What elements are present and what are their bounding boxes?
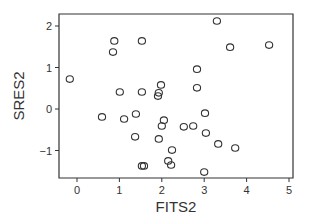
data-point-circle-icon (121, 116, 128, 123)
data-point-circle-icon (215, 141, 222, 148)
x-tick-label: 0 (74, 184, 80, 196)
data-point-circle-icon (202, 130, 209, 137)
data-point-circle-icon (111, 38, 118, 45)
data-point-circle-icon (132, 111, 139, 118)
x-tick-label: 2 (159, 184, 165, 196)
y-tick-label: 2 (46, 20, 52, 32)
plot-frame-border (59, 14, 293, 178)
y-tick-label: −1 (39, 145, 52, 157)
data-point-circle-icon (232, 145, 239, 152)
data-point-circle-icon (168, 147, 175, 154)
data-point-circle-icon (155, 136, 162, 143)
scatter-plot: 012345 −1012 FITS2 SRES2 (0, 0, 309, 220)
data-point-circle-icon (157, 82, 164, 89)
plot-frame (59, 14, 293, 178)
x-tick-label: 5 (286, 184, 292, 196)
data-point-circle-icon (138, 38, 145, 45)
data-point-circle-icon (227, 44, 234, 51)
data-point-circle-icon (66, 76, 73, 83)
x-tick-label: 3 (201, 184, 207, 196)
data-point-circle-icon (201, 110, 208, 117)
data-point-circle-icon (190, 123, 197, 130)
data-point-circle-icon (138, 89, 145, 96)
x-tick-label: 1 (116, 184, 122, 196)
data-points (66, 18, 273, 176)
data-point-circle-icon (213, 18, 220, 25)
y-tick-label: 0 (46, 103, 52, 115)
data-point-circle-icon (98, 114, 105, 121)
y-axis-title: SRES2 (10, 71, 27, 120)
data-point-circle-icon (116, 89, 123, 96)
x-axis: 012345 (74, 178, 292, 196)
data-point-circle-icon (193, 85, 200, 92)
y-axis: −1012 (39, 20, 59, 157)
data-point-circle-icon (193, 66, 200, 73)
data-point-circle-icon (201, 169, 208, 176)
data-point-circle-icon (109, 49, 116, 56)
data-point-circle-icon (132, 134, 139, 141)
x-axis-title: FITS2 (156, 198, 197, 215)
data-point-circle-icon (180, 124, 187, 131)
y-tick-label: 1 (46, 62, 52, 74)
data-point-circle-icon (266, 42, 273, 49)
x-tick-label: 4 (244, 184, 250, 196)
